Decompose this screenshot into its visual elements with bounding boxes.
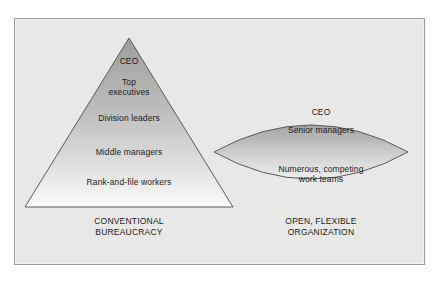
lens-level-senior-managers: Senior managers bbox=[252, 126, 390, 136]
triangle-level-middle-managers: Middle managers bbox=[58, 148, 200, 158]
lens-level-ceo: CEO bbox=[270, 108, 372, 118]
triangle-level-rank-and-file-workers: Rank-and-file workers bbox=[44, 178, 214, 188]
triangle-level-ceo: CEO bbox=[88, 57, 170, 67]
lens-level-work-teams: Numerous, competing work teams bbox=[250, 165, 392, 185]
triangle-level-division-leaders: Division leaders bbox=[58, 114, 200, 124]
triangle-level-top-executives: Top executives bbox=[78, 78, 180, 98]
caption-conventional-bureaucracy: CONVENTIONAL BUREAUCRACY bbox=[54, 216, 204, 239]
caption-open-flexible-organization: OPEN, FLEXIBLE ORGANIZATION bbox=[248, 216, 394, 239]
figure-root: CEO Top executives Division leaders Midd… bbox=[0, 0, 438, 287]
